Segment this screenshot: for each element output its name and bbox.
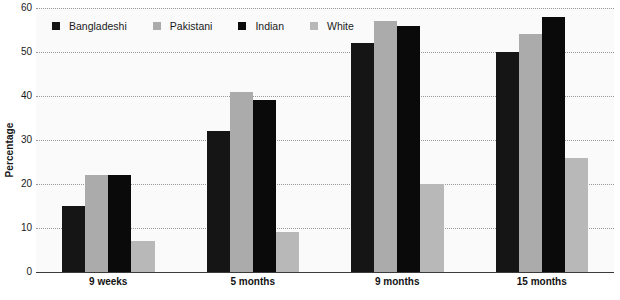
legend-swatch-icon — [52, 22, 60, 30]
bar-group — [207, 8, 299, 272]
y-axis-title: Percentage — [2, 0, 16, 300]
y-axis-tick-label: 50 — [6, 46, 32, 57]
y-axis-tick-label: 40 — [6, 90, 32, 101]
x-axis-tick-label: 15 months — [470, 276, 615, 287]
bar — [542, 17, 565, 272]
x-axis-tick-label: 9 months — [325, 276, 470, 287]
bar — [420, 184, 443, 272]
bar — [565, 158, 588, 272]
y-axis-tick-label: 30 — [6, 134, 32, 145]
bar — [131, 241, 154, 272]
bar — [496, 52, 519, 272]
bar-group — [351, 8, 443, 272]
legend-label: White — [327, 20, 354, 32]
legend-entry[interactable]: Bangladeshi — [52, 20, 127, 32]
x-axis-line — [36, 272, 614, 273]
bar — [207, 131, 230, 272]
plot-area — [36, 8, 614, 272]
bar — [62, 206, 85, 272]
y-axis-tick-label: 0 — [6, 266, 32, 277]
legend-swatch-icon — [153, 22, 161, 30]
y-axis-tick-label: 10 — [6, 222, 32, 233]
legend-label: Pakistani — [170, 20, 213, 32]
bars-layer — [36, 8, 614, 272]
bar — [374, 21, 397, 272]
y-axis-tick-label: 20 — [6, 178, 32, 189]
bar — [230, 92, 253, 272]
bar — [397, 26, 420, 272]
bar-group — [496, 8, 588, 272]
bar-group — [62, 8, 154, 272]
legend-swatch-icon — [238, 22, 246, 30]
bar — [519, 34, 542, 272]
bar — [108, 175, 131, 272]
legend: BangladeshiPakistaniIndianWhite — [52, 18, 354, 34]
x-axis-tick-label: 5 months — [181, 276, 326, 287]
bar-chart: Percentage 0102030405060 9 weeks5 months… — [0, 0, 620, 300]
bar — [276, 232, 299, 272]
legend-swatch-icon — [310, 22, 318, 30]
x-axis-tick-label: 9 weeks — [36, 276, 181, 287]
legend-label: Indian — [255, 20, 284, 32]
y-axis-tick-label: 60 — [6, 2, 32, 13]
bar — [85, 175, 108, 272]
bar — [351, 43, 374, 272]
legend-entry[interactable]: Indian — [238, 20, 284, 32]
x-axis-tick-labels: 9 weeks5 months9 months15 months — [36, 276, 614, 296]
legend-entry[interactable]: Pakistani — [153, 20, 213, 32]
legend-entry[interactable]: White — [310, 20, 354, 32]
bar — [253, 100, 276, 272]
legend-label: Bangladeshi — [69, 20, 127, 32]
